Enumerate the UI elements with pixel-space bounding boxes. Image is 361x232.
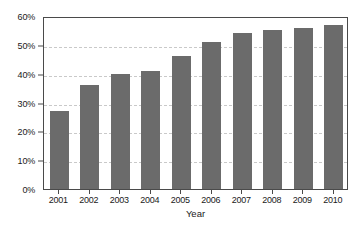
x-axis-tick-mark [58, 190, 59, 194]
x-axis-tick-mark [211, 190, 212, 194]
bar [50, 111, 69, 189]
x-axis-tick-mark [150, 190, 151, 194]
x-axis-tick-label: 2007 [232, 195, 251, 205]
x-axis-tick-label: 2008 [262, 195, 281, 205]
bar [141, 71, 160, 189]
bar [111, 74, 130, 189]
y-axis-tick-label: 10% [18, 156, 35, 166]
y-axis-tick-label: 0% [22, 185, 35, 195]
x-axis-title: Year [43, 208, 348, 219]
bar [294, 28, 313, 189]
y-axis-tick-label: 50% [18, 41, 35, 51]
x-axis-tick-label: 2006 [201, 195, 220, 205]
bar [172, 56, 191, 189]
bar-chart-figure: 0%10%20%30%40%50%60% 2001200220032004200… [0, 0, 361, 232]
y-axis-tick-label: 40% [18, 70, 35, 80]
x-axis-tick-label: 2004 [140, 195, 159, 205]
x-axis-tick-label: 2001 [49, 195, 68, 205]
bars-group [44, 18, 347, 189]
bar [80, 85, 99, 189]
y-axis-tick-label: 20% [18, 127, 35, 137]
bar [233, 33, 252, 189]
x-axis-tick-mark [302, 190, 303, 194]
bar [263, 30, 282, 189]
y-axis-tick-label: 60% [18, 12, 35, 22]
x-axis-tick-mark [241, 190, 242, 194]
x-axis-tick-label: 2002 [79, 195, 98, 205]
bar [324, 25, 343, 189]
x-axis-tick-label: 2010 [323, 195, 342, 205]
x-axis-tick-mark [180, 190, 181, 194]
x-axis-tick-mark [272, 190, 273, 194]
x-axis: 2001200220032004200520062007200820092010 [43, 190, 348, 210]
bar [202, 42, 221, 189]
x-axis-tick-mark [333, 190, 334, 194]
y-axis: 0%10%20%30%40%50%60% [0, 0, 43, 191]
y-axis-tick-label: 30% [18, 99, 35, 109]
x-axis-tick-label: 2005 [171, 195, 190, 205]
x-axis-tick-label: 2003 [110, 195, 129, 205]
x-axis-tick-mark [89, 190, 90, 194]
x-axis-tick-mark [119, 190, 120, 194]
x-axis-tick-label: 2009 [293, 195, 312, 205]
plot-area [43, 17, 348, 190]
